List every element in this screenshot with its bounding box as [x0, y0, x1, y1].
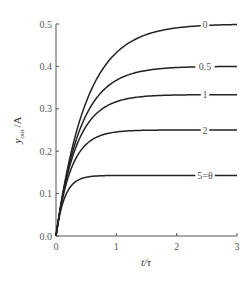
curve-label-2: 2: [203, 125, 208, 136]
curves: [56, 25, 237, 236]
svg-text:yout/A: yout/A: [11, 117, 26, 145]
curve-theta-2: [56, 130, 237, 236]
y-tick-label: 0.0: [40, 231, 53, 242]
line-chart: 0.00.10.20.30.40.50123 00.5125=θ t/τ you…: [0, 0, 252, 281]
curve-theta-0.5: [56, 66, 237, 236]
y-axis-title-sub: out: [18, 130, 26, 139]
y-tick-label: 0.5: [40, 19, 53, 30]
curve-label-5: 5=θ: [197, 170, 213, 181]
curve-label-0: 0: [203, 19, 208, 30]
x-tick-label: 1: [114, 241, 119, 252]
y-axis-title: yout/A: [11, 117, 26, 145]
y-tick-label: 0.2: [40, 146, 53, 157]
curve-theta-5: [56, 175, 237, 236]
y-tick-label: 0.1: [40, 188, 53, 199]
y-axis-title-suffix: /A: [11, 117, 23, 128]
axes: 0.00.10.20.30.40.50123: [40, 19, 240, 253]
y-tick-label: 0.4: [40, 61, 53, 72]
x-tick-label: 3: [235, 241, 240, 252]
curve-label-0.5: 0.5: [199, 61, 212, 72]
x-tick-label: 0: [54, 241, 59, 252]
curve-label-1: 1: [203, 89, 208, 100]
curve-labels: 00.5125=θ: [195, 19, 215, 181]
y-tick-label: 0.3: [40, 103, 53, 114]
x-axis-title: t/τ: [141, 256, 152, 268]
x-tick-label: 2: [174, 241, 179, 252]
curve-theta-1: [56, 95, 237, 236]
